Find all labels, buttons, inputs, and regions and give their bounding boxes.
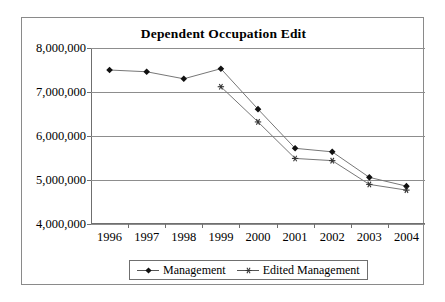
y-axis-tick-label: 7,000,000 — [36, 85, 86, 100]
x-axis-tick-mark — [128, 224, 129, 228]
data-point-marker — [106, 67, 113, 74]
x-axis-tick-mark — [351, 224, 352, 228]
legend-label: Edited Management — [263, 263, 360, 278]
data-point-marker — [180, 76, 187, 83]
x-axis-tick-mark — [202, 224, 203, 228]
x-axis-tick-label: 2004 — [394, 230, 419, 245]
x-axis-tick-label: 2001 — [283, 230, 308, 245]
y-axis-tick-label: 4,000,000 — [36, 217, 86, 232]
chart-legend: ManagementEdited Management — [129, 260, 368, 280]
y-axis-tick-label: 5,000,000 — [36, 173, 86, 188]
x-axis-tick-label: 2003 — [357, 230, 382, 245]
series-line — [221, 87, 407, 190]
data-point-marker — [329, 149, 336, 156]
y-axis-tick-label: 8,000,000 — [36, 41, 86, 56]
star-marker-icon — [237, 265, 259, 275]
x-axis-tick-label: 2002 — [320, 230, 345, 245]
legend-label: Management — [163, 263, 226, 278]
chart-frame: Dependent Occupation Edit 8,000,0007,000… — [21, 17, 424, 285]
x-axis-tick-mark — [165, 224, 166, 228]
x-axis-tick-mark — [239, 224, 240, 228]
plot-inner: 8,000,0007,000,0006,000,0005,000,0004,00… — [91, 48, 425, 224]
x-axis-tick-mark — [388, 224, 389, 228]
plot-area: 8,000,0007,000,0006,000,0005,000,0004,00… — [91, 48, 425, 224]
y-axis-tick-mark — [87, 224, 91, 225]
x-axis-tick-mark — [277, 224, 278, 228]
diamond-marker-icon — [137, 265, 159, 275]
x-axis-tick-mark — [314, 224, 315, 228]
gridline — [91, 224, 425, 225]
x-axis-tick-label: 2000 — [246, 230, 271, 245]
x-axis-tick-label: 1997 — [134, 230, 159, 245]
series-plot — [91, 48, 425, 224]
legend-item[interactable]: Management — [137, 263, 226, 278]
y-axis-tick-label: 6,000,000 — [36, 129, 86, 144]
series-line — [110, 69, 407, 186]
data-point-marker — [366, 174, 373, 181]
x-axis-tick-label: 1996 — [97, 230, 122, 245]
x-axis-tick-label: 1999 — [208, 230, 233, 245]
data-point-marker — [143, 68, 150, 75]
legend-item[interactable]: Edited Management — [237, 263, 360, 278]
x-axis-tick-label: 1998 — [171, 230, 196, 245]
data-point-marker — [403, 183, 410, 190]
